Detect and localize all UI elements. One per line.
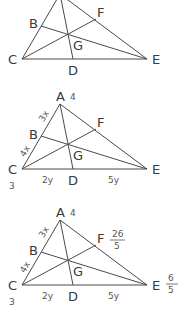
label-c: C xyxy=(8,278,17,293)
mass-f-fraction: 26 5 xyxy=(110,229,125,251)
label-a: A xyxy=(56,205,65,220)
label-g: G xyxy=(73,264,83,279)
label-a: A xyxy=(56,89,65,104)
label-d: D xyxy=(68,63,78,78)
label-b: B xyxy=(29,127,38,142)
label-b: B xyxy=(29,243,38,258)
label-d: D xyxy=(68,289,78,304)
segment-ab: 3x xyxy=(37,108,52,123)
segment-cd: 2y xyxy=(42,291,54,301)
segment-bc: 4x xyxy=(18,259,33,274)
label-e: E xyxy=(152,278,160,293)
segment-cd: 2y xyxy=(42,175,54,185)
label-c: C xyxy=(8,162,17,177)
mass-f-denominator: 5 xyxy=(114,241,120,251)
mass-e-denominator: 5 xyxy=(168,285,174,295)
segment-ab: 3x xyxy=(37,224,52,239)
label-e: E xyxy=(152,162,160,177)
segment-bc: 4x xyxy=(18,143,33,158)
label-d: D xyxy=(68,173,78,188)
label-f: F xyxy=(97,231,104,246)
figure-2-triangle: A 4 3x B 4x F G C 3 2y D 5y E xyxy=(0,85,190,195)
mass-a: 4 xyxy=(70,92,76,102)
label-e: E xyxy=(152,52,160,67)
label-f: F xyxy=(97,115,104,130)
mass-e-numerator: 6 xyxy=(168,273,174,283)
label-b: B xyxy=(29,16,38,31)
mass-e-fraction: 6 5 xyxy=(166,273,178,295)
segment-de: 5y xyxy=(108,291,120,301)
label-g: G xyxy=(73,38,83,53)
mass-f-numerator: 26 xyxy=(112,229,124,239)
label-f: F xyxy=(97,5,104,20)
figure-3-triangle: A 4 3x B 4x F 26 5 G C 3 2y D 5y E 6 5 xyxy=(0,195,190,314)
label-c: C xyxy=(8,52,17,67)
label-g: G xyxy=(73,148,83,163)
mass-c: 3 xyxy=(9,297,15,307)
mass-c: 3 xyxy=(9,181,15,191)
mass-a: 4 xyxy=(70,208,76,218)
triangle-lines xyxy=(22,0,147,59)
figure-1-triangle: B F G C D E xyxy=(0,0,190,80)
segment-de: 5y xyxy=(108,175,120,185)
